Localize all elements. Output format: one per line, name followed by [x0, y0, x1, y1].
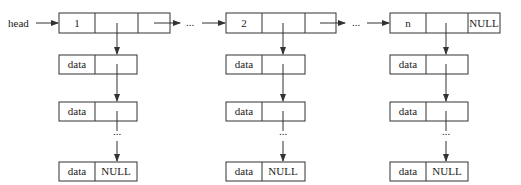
svg-text:data: data — [399, 165, 417, 177]
svg-text:data: data — [235, 105, 253, 117]
main-node-2: 2 — [226, 13, 336, 33]
svg-text:NULL: NULL — [432, 165, 462, 177]
main-node-value: n — [405, 17, 411, 29]
ellipsis: ... — [113, 125, 122, 137]
linked-list-diagram: head 1 ... data data ... data NULL 2 ... — [0, 0, 521, 185]
sub-node-last: data NULL — [59, 162, 137, 181]
ellipsis: ... — [186, 16, 195, 28]
main-node-value: 2 — [241, 17, 247, 29]
svg-text:data: data — [68, 105, 86, 117]
svg-text:data: data — [235, 58, 253, 70]
ellipsis: ... — [352, 16, 361, 28]
sub-node-last: data NULL — [226, 162, 305, 181]
main-node-value: 1 — [74, 17, 80, 29]
svg-text:data: data — [399, 58, 417, 70]
sub-node: data — [226, 55, 305, 74]
svg-text:NULL: NULL — [101, 165, 131, 177]
sub-node: data — [390, 55, 468, 74]
sub-node-last: data NULL — [390, 162, 468, 181]
ellipsis: ... — [279, 125, 288, 137]
svg-text:NULL: NULL — [268, 165, 298, 177]
sub-node: data — [226, 102, 305, 121]
svg-text:data: data — [68, 165, 86, 177]
svg-text:data: data — [68, 58, 86, 70]
main-node-n: n NULL — [390, 13, 500, 33]
svg-text:data: data — [235, 165, 253, 177]
sub-node: data — [390, 102, 468, 121]
sub-node: data — [59, 55, 137, 74]
head-label: head — [8, 17, 29, 29]
ellipsis: ... — [442, 125, 451, 137]
svg-text:data: data — [399, 105, 417, 117]
main-node-next: NULL — [469, 17, 499, 29]
sub-node: data — [59, 102, 137, 121]
main-node-1: 1 — [59, 13, 170, 33]
